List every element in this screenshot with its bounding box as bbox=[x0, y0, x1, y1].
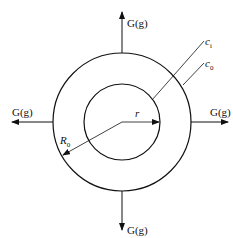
flux-label-bottom: G(g) bbox=[127, 224, 148, 237]
inner-radius-label: r bbox=[135, 107, 140, 119]
outer-radius-label: R0 bbox=[59, 134, 71, 149]
outer-radius-arrow bbox=[63, 122, 122, 155]
c0-leader-line bbox=[183, 63, 204, 85]
c0-label: c0 bbox=[205, 57, 214, 72]
diagram-canvas: G(g) G(g) G(g) G(g) ci c0 r R0 bbox=[0, 0, 233, 238]
ci-leader-line bbox=[152, 41, 204, 100]
ci-label: ci bbox=[205, 35, 212, 50]
flux-label-top: G(g) bbox=[127, 17, 148, 30]
flux-label-left: G(g) bbox=[12, 106, 33, 119]
flux-label-right: G(g) bbox=[210, 106, 231, 119]
